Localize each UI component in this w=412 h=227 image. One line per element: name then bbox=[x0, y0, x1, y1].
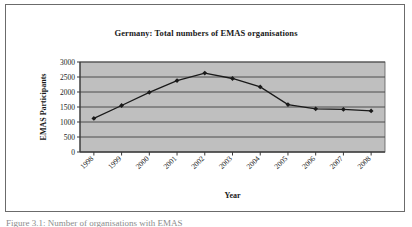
x-axis-tick-label: 2007 bbox=[328, 154, 345, 171]
x-axis-tick-label: 2003 bbox=[217, 154, 234, 171]
x-axis-tick-label: 1999 bbox=[106, 154, 123, 171]
y-axis-tick-label: 2000 bbox=[60, 88, 75, 97]
y-axis-tick-label: 0 bbox=[71, 148, 75, 157]
x-axis-tick-label: 2000 bbox=[134, 154, 151, 171]
x-axis-title: Year bbox=[225, 191, 241, 200]
y-axis-tick-label: 500 bbox=[64, 133, 76, 142]
x-axis-tick-label: 2005 bbox=[272, 154, 289, 171]
y-axis-tick-label: 1000 bbox=[60, 118, 75, 127]
x-axis-tick-label: 2004 bbox=[245, 154, 262, 171]
y-axis-tick-label: 3000 bbox=[60, 58, 75, 67]
y-axis-title: EMAS Participants bbox=[39, 74, 48, 141]
x-axis-tick-label: 2002 bbox=[189, 154, 206, 171]
line-chart: 0500100015002000250030001998199920002001… bbox=[0, 0, 412, 227]
y-axis-tick-label: 1500 bbox=[60, 103, 75, 112]
x-axis-tick-label: 2006 bbox=[300, 154, 317, 171]
figure-container: Germany: Total numbers of EMAS organisat… bbox=[0, 0, 412, 227]
figure-caption-text: Figure 3.1: Number of organisations with… bbox=[6, 219, 406, 227]
x-axis-tick-label: 2001 bbox=[161, 154, 178, 171]
x-axis-tick-label: 2008 bbox=[356, 154, 373, 171]
x-axis-tick-label: 1998 bbox=[78, 154, 95, 171]
figure-caption: Figure 3.1: Number of organisations with… bbox=[6, 219, 406, 227]
y-axis-tick-label: 2500 bbox=[60, 73, 75, 82]
